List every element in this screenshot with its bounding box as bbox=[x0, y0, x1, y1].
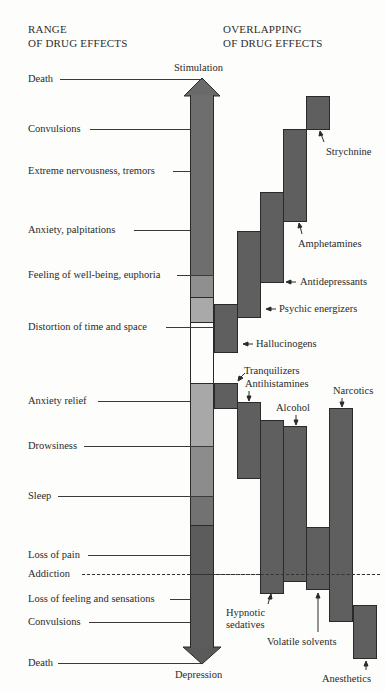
arrow-pointer-icon bbox=[319, 131, 323, 136]
label-hallucinogens: Hallucinogens bbox=[256, 338, 317, 350]
label-anesthetics: Anesthetics bbox=[322, 673, 371, 685]
label-strychnine: Strychnine bbox=[326, 146, 372, 158]
label-sedatives: sedatives bbox=[226, 619, 265, 631]
label-hypnotic: Hypnotic bbox=[226, 607, 265, 619]
label-volatile-solvents: Volatile solvents bbox=[267, 636, 337, 648]
label-hypnotic-sedatives: Hypnotic sedatives bbox=[226, 607, 265, 631]
label-tranquilizers: Tranquilizers bbox=[244, 365, 300, 377]
label-amphetamines: Amphetamines bbox=[298, 238, 362, 250]
pointer-arrows bbox=[0, 0, 385, 693]
label-alcohol: Alcohol bbox=[276, 402, 310, 414]
label-psychic-energizers: Psychic energizers bbox=[279, 303, 357, 315]
label-narcotics: Narcotics bbox=[333, 385, 373, 397]
label-antihistamines: Antihistamines bbox=[245, 378, 309, 390]
label-antidepressants: Antidepressants bbox=[300, 276, 367, 288]
